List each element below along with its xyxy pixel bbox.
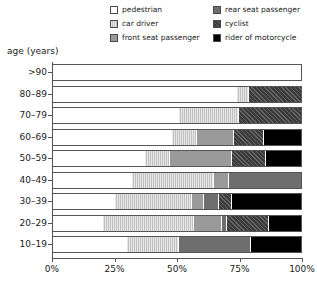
x-axis-tick [240,258,241,262]
bar-segment-rear-seat-passenger [179,237,251,252]
bar-segment-rear-seat-passenger [204,194,219,209]
bar-segment-car-driver [172,130,197,145]
bar-row: 70–79 [52,107,302,124]
stacked-bar [52,64,302,81]
legend-swatch-cyclist-icon [213,20,221,28]
bar-segment-rider-of-motorcycle [266,151,301,166]
bar-segment-car-driver [115,194,192,209]
bar-segment-pedestrian [53,130,172,145]
bar-segment-pedestrian [53,108,179,123]
bar-segment-car-driver [237,87,249,102]
x-axis-tick [302,258,303,262]
legend-item-front-seat-passenger: front seat passenger [110,32,213,43]
bar-segment-rider-of-motorcycle [232,194,301,209]
bar-segment-cyclist [227,216,269,231]
legend-item-cyclist: cyclist [213,18,316,29]
y-axis-label-80-89: 80–89 [0,86,47,103]
legend-label-cyclist: cyclist [225,19,249,28]
x-axis-tick [177,258,178,262]
y-axis-label-50-59: 50–59 [0,150,47,167]
y-axis-label-30-39: 30–39 [0,193,47,210]
bar-segment-car-driver [132,173,214,188]
x-axis-label-50: 50% [167,264,187,274]
chart-plot-area: >9080–8970–7960–6950–5940–4930–3920–2910… [0,62,317,272]
legend-swatch-rider-of-motorcycle-icon [213,34,221,42]
bar-segment-front-seat-passenger [214,173,229,188]
x-axis-label-75: 75% [229,264,249,274]
legend-item-car-driver: car driver [110,18,213,29]
bar-segment-pedestrian [53,87,237,102]
bar-segment-cyclist [232,151,267,166]
chart-legend: pedestrian car driver front seat passeng… [110,4,317,43]
x-axis-tick [115,258,116,262]
bar-segment-rider-of-motorcycle [269,216,301,231]
bar-segment-front-seat-passenger [197,130,234,145]
bar-segment-rider-of-motorcycle [264,130,301,145]
bar-row: 10–19 [52,236,302,253]
bar-segment-rider-of-motorcycle [251,237,301,252]
legend-item-pedestrian: pedestrian [110,4,213,15]
stacked-bar [52,107,302,124]
x-axis-tick [52,258,53,262]
bar-segment-car-driver [103,216,195,231]
bar-segment-cyclist [249,87,301,102]
bar-segment-front-seat-passenger [194,216,221,231]
bar-segment-pedestrian [53,173,132,188]
bar-row: 30–39 [52,193,302,210]
legend-swatch-rear-seat-passenger-icon [213,6,221,14]
bar-segment-front-seat-passenger [170,151,232,166]
y-axis-label-10-19: 10–19 [0,236,47,253]
bar-segment-car-driver [145,151,170,166]
bar-segment-rear-seat-passenger [229,173,301,188]
stacked-bar [52,150,302,167]
bar-segment-cyclist [234,130,264,145]
legend-label-car-driver: car driver [122,19,158,28]
x-axis-label-25: 25% [104,264,124,274]
bar-segment-front-seat-passenger [192,194,204,209]
x-axis-label-0: 0% [45,264,59,274]
bar-segment-cyclist [239,108,301,123]
bar-row: 20–29 [52,215,302,232]
legend-column-right: rear seat passenger cyclist rider of mot… [213,4,316,43]
bar-row: 50–59 [52,150,302,167]
legend-label-rider-of-motorcycle: rider of motorcycle [225,33,296,42]
y-axis-label-70-79: 70–79 [0,107,47,124]
bar-segment-pedestrian [53,65,301,80]
legend-column-left: pedestrian car driver front seat passeng… [110,4,213,43]
legend-swatch-pedestrian-icon [110,6,118,14]
legend-item-rider-of-motorcycle: rider of motorcycle [213,32,316,43]
bar-segment-pedestrian [53,151,145,166]
bar-row: 60–69 [52,129,302,146]
bar-segment-pedestrian [53,194,115,209]
y-axis-title: age (years) [7,46,58,56]
bar-row: 40–49 [52,172,302,189]
legend-swatch-front-seat-passenger-icon [110,34,118,42]
y-axis-label-90: >90 [0,64,47,81]
y-axis-label-60-69: 60–69 [0,129,47,146]
bar-segment-car-driver [127,237,179,252]
bar-row: >90 [52,64,302,81]
stacked-bar [52,236,302,253]
bar-segment-cyclist [219,194,231,209]
legend-label-pedestrian: pedestrian [122,5,162,14]
x-axis-label-100: 100% [289,264,315,274]
stacked-bar [52,193,302,210]
bar-segment-pedestrian [53,216,103,231]
stacked-bar [52,172,302,189]
bar-segment-pedestrian [53,237,127,252]
stacked-bar [52,215,302,232]
y-axis-label-40-49: 40–49 [0,172,47,189]
legend-label-rear-seat-passenger: rear seat passenger [225,5,300,14]
bar-row: 80–89 [52,86,302,103]
stacked-bar [52,86,302,103]
legend-swatch-car-driver-icon [110,20,118,28]
legend-item-rear-seat-passenger: rear seat passenger [213,4,316,15]
y-axis-label-20-29: 20–29 [0,215,47,232]
legend-label-front-seat-passenger: front seat passenger [122,33,200,42]
bar-segment-car-driver [179,108,239,123]
stacked-bar [52,129,302,146]
